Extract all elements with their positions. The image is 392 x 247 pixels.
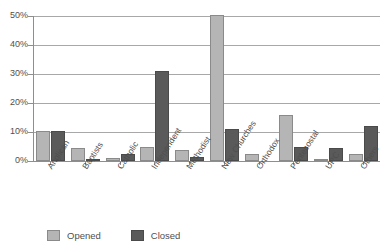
x-axis-category-label: New Churches [220, 119, 258, 171]
x-axis-category-label: Independent [150, 126, 183, 171]
x-axis-category-label: Catholic [116, 140, 140, 171]
closed-swatch [131, 230, 144, 241]
x-axis-category-label: Pentecostal [289, 129, 321, 171]
x-axis-category-label: Baptists [81, 141, 105, 171]
legend-item: Opened [47, 230, 101, 241]
chart-legend: OpenedClosed [47, 230, 180, 241]
legend-label: Closed [151, 230, 181, 241]
legend-label: Opened [67, 230, 101, 241]
x-axis-labels: AnglicanBaptistsCatholicIndependentMetho… [0, 0, 392, 247]
x-axis-category-label: URC [324, 151, 342, 171]
x-axis-category-label: Anglican [46, 139, 71, 171]
opened-swatch [47, 230, 60, 241]
x-axis-category-label: Others [359, 145, 380, 171]
x-axis-category-label: Orthodox [255, 137, 282, 171]
x-axis-category-label: Methodist [185, 135, 213, 171]
legend-item: Closed [131, 230, 181, 241]
bar-chart: 50%40%30%20%10%0% AnglicanBaptistsCathol… [0, 0, 392, 247]
